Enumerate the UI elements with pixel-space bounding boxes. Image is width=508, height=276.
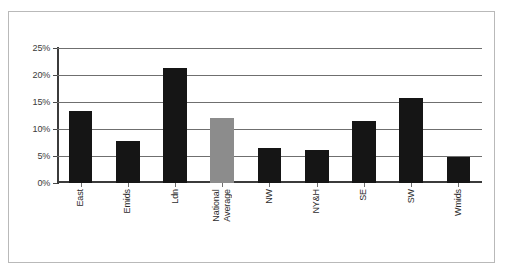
y-tick-label: 5% [37, 151, 50, 161]
x-tick-mark [81, 183, 82, 187]
x-tick-label-wmids: Wmids [453, 189, 464, 216]
x-tick-label-sw: SW [406, 189, 417, 203]
bar-slot [104, 48, 151, 183]
x-tick-mark [411, 183, 412, 187]
y-tick-label: 25% [33, 43, 50, 53]
x-tick-mark [317, 183, 318, 187]
x-tick-label-emids: Emids [122, 189, 133, 214]
bar-sw [399, 98, 423, 183]
y-tick-label: 20% [33, 70, 50, 80]
y-tick-label: 0% [37, 178, 50, 188]
x-tick-mark [222, 183, 223, 187]
bar-se [352, 121, 376, 183]
y-tick-mark [53, 183, 57, 184]
x-tick-label-se: SE [358, 189, 369, 201]
bar-national-average [210, 118, 234, 183]
x-tick-mark [364, 183, 365, 187]
bar-slot [246, 48, 293, 183]
x-label-slot: Wmids [435, 189, 482, 259]
x-tick-mark [128, 183, 129, 187]
x-label-slot: NW [246, 189, 293, 259]
bar-ny-h [305, 150, 329, 183]
y-tick-label: 10% [33, 124, 50, 134]
x-label-slot: NY&H [293, 189, 340, 259]
bar-slot [340, 48, 387, 183]
bar-east [69, 111, 93, 183]
x-tick-mark [269, 183, 270, 187]
x-label-slot: Ldn [151, 189, 198, 259]
bar-slot [151, 48, 198, 183]
x-label-slot: SE [340, 189, 387, 259]
x-label-slot: SW [388, 189, 435, 259]
bar-slot [199, 48, 246, 183]
bar-series [57, 48, 482, 183]
y-tick-label: 15% [33, 97, 50, 107]
bar-wmids [447, 157, 471, 183]
plot-area: 25%20%15%10%5%0% [57, 48, 482, 183]
bar-nw [258, 148, 282, 183]
x-tick-label-east: East [75, 189, 86, 207]
bar-slot [57, 48, 104, 183]
chart-figure: 25%20%15%10%5%0% EastEmidsLdnNational Av… [8, 11, 495, 263]
bar-emids [116, 141, 140, 183]
x-tick-label-ldn: Ldn [170, 189, 181, 204]
x-tick-label-ny-h: NY&H [311, 189, 322, 214]
x-tick-mark [175, 183, 176, 187]
x-tick-label-national-average: National Average [211, 189, 233, 222]
bar-slot [293, 48, 340, 183]
x-label-slot: East [57, 189, 104, 259]
x-tick-label-nw: NW [264, 189, 275, 204]
bar-slot [388, 48, 435, 183]
bar-ldn [163, 68, 187, 183]
x-tick-mark [458, 183, 459, 187]
bar-slot [435, 48, 482, 183]
x-axis-labels: EastEmidsLdnNational AverageNWNY&HSESWWm… [57, 189, 482, 259]
x-label-slot: National Average [199, 189, 246, 259]
x-label-slot: Emids [104, 189, 151, 259]
